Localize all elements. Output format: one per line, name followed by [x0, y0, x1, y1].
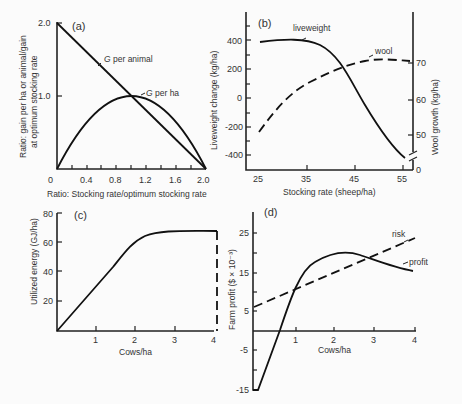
panel-c-xlabel: Cows/ha [119, 347, 152, 357]
x-tick-45: 45 [349, 174, 359, 184]
y-tick-20: 20 [43, 296, 53, 306]
panel-b-xlabel: Stocking rate (sheep/ha) [283, 187, 376, 197]
x-tick-3: 3 [172, 335, 177, 345]
right-tick-60: 60 [416, 95, 426, 105]
y-tick-minus15: -15 [236, 385, 249, 395]
left-tick-minus200: -200 [225, 122, 243, 132]
x-tick-0.8: 0.8 [109, 175, 122, 185]
liveweight-annotation: liveweight [293, 23, 331, 33]
profit-leader [403, 262, 408, 264]
utilized-energy-curve [57, 231, 217, 331]
profit-annotation: profit [409, 257, 429, 267]
x-tick-2.0: 2.0 [197, 175, 210, 185]
panel-a: (a) 2.0 1.0 0 0.4 0.8 1.2 1.6 2.0 Ratio:… [18, 18, 210, 199]
panel-b-ylabel-right: Wool growth (kg/ha) [430, 79, 440, 155]
x-tick-0: 0 [48, 175, 53, 185]
right-tick-50: 50 [416, 130, 426, 140]
g-per-animal-annotation: G per animal [104, 54, 153, 64]
risk-line [254, 238, 415, 307]
x-tick-2: 2 [331, 335, 336, 345]
panel-b-label: (b) [258, 17, 271, 29]
x-tick-1.2: 1.2 [139, 175, 152, 185]
wool-curve [259, 59, 410, 132]
panel-d-y-axis [253, 212, 258, 390]
y-tick-15: 15 [239, 268, 249, 278]
wool-annotation: wool [374, 46, 393, 56]
g-per-ha-leader [141, 93, 145, 95]
x-tick-4: 4 [211, 335, 216, 345]
risk-annotation: risk [392, 229, 406, 239]
axis-break-icon [409, 151, 417, 161]
left-tick-400: 400 [227, 36, 242, 46]
y-tick-1.0: 1.0 [38, 91, 51, 101]
panel-d-ylabel: Farm profit ($ × 10⁻³) [227, 249, 237, 330]
panel-a-xlabel: Ratio: Stocking rate/optimum stocking ra… [47, 189, 207, 199]
liveweight-curve [260, 40, 405, 158]
x-tick-1.6: 1.6 [169, 175, 182, 185]
y-tick-minus5: -5 [240, 345, 248, 355]
x-tick-55: 55 [397, 174, 407, 184]
x-tick-4: 4 [412, 335, 417, 345]
figure: (a) 2.0 1.0 0 0.4 0.8 1.2 1.6 2.0 Ratio:… [0, 0, 462, 404]
y-tick-5: 5 [244, 306, 249, 316]
right-tick-0: 0 [416, 165, 421, 175]
x-tick-2: 2 [132, 335, 137, 345]
panel-c-ylabel: Utilized energy (GJ/ha) [29, 218, 39, 305]
panel-c: (c) 80 60 40 20 1 2 3 4 Cows/ha Utilized… [29, 209, 217, 357]
panel-d-xlabel: Cows/ha [318, 345, 351, 355]
left-tick-0: 0 [237, 93, 242, 103]
y-tick-80: 80 [43, 209, 53, 219]
left-tick-minus400: -400 [225, 150, 243, 160]
panel-a-ylabel-line2: at optimum stocking rate [29, 55, 39, 148]
panel-d: (d) 25 15 5 -5 -15 1 2 3 4 Cows/ha Farm … [227, 206, 429, 395]
panel-c-ticks [57, 213, 175, 331]
panel-d-label: (d) [264, 206, 277, 218]
panel-b-left-bottom-axes [246, 12, 413, 170]
panel-a-label: (a) [72, 20, 85, 32]
g-per-ha-curve [57, 96, 206, 169]
wool-leader [369, 55, 373, 57]
y-tick-2.0: 2.0 [38, 18, 51, 28]
y-tick-25: 25 [239, 228, 249, 238]
y-tick-40: 40 [43, 267, 53, 277]
x-tick-1: 1 [93, 335, 98, 345]
panel-a-ylabel-line1: Ratio: gain per ha or animal/gain [18, 35, 28, 158]
risk-leader [404, 240, 408, 242]
x-tick-35: 35 [301, 174, 311, 184]
g-per-ha-annotation: G per ha [146, 88, 179, 98]
x-tick-1: 1 [293, 335, 298, 345]
panel-c-label: (c) [74, 209, 87, 221]
y-tick-60: 60 [43, 238, 53, 248]
x-tick-3: 3 [371, 335, 376, 345]
left-tick-200: 200 [227, 64, 242, 74]
panel-b-ylabel-left: Liveweight change (kg/ha) [209, 51, 219, 150]
x-tick-25: 25 [253, 174, 263, 184]
x-tick-0.4: 0.4 [80, 175, 93, 185]
right-tick-70: 70 [416, 58, 426, 68]
panel-b: (b) 400 200 0 -200 -400 70 60 50 0 25 35… [209, 12, 440, 197]
